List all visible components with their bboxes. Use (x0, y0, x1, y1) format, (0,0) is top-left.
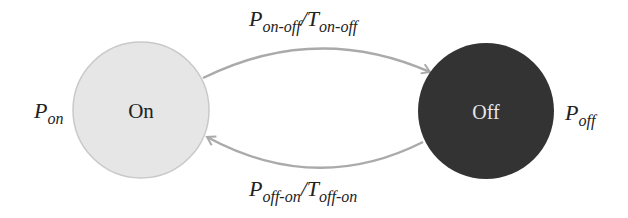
transition-arrow-off-to-on (207, 137, 423, 168)
transition-arrow-on-to-off (203, 48, 430, 78)
state-off-label: Off (472, 101, 500, 123)
state-on-power-label: Pon (33, 98, 63, 127)
state-on-label: On (128, 99, 154, 123)
transition-off-on-label: Poff-on/Toff-on (248, 176, 357, 206)
transition-on-off-label: Pon-off/Ton-off (248, 6, 360, 36)
state-off-power-label: Poff (564, 100, 598, 130)
state-diagram: On Off Pon Poff Pon-off/Ton-off Poff-on/… (0, 0, 628, 218)
